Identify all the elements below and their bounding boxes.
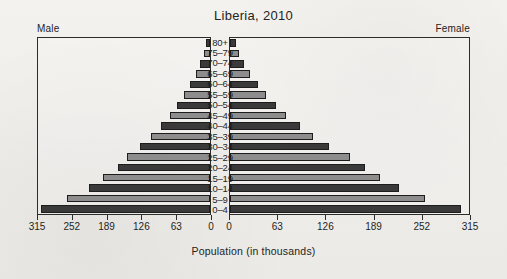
age-row: 45–49	[211, 110, 229, 120]
axis-tick	[107, 215, 108, 220]
female-tick-label: 63	[272, 221, 283, 232]
female-tick-label: 126	[317, 221, 334, 232]
female-bar-10-14	[230, 184, 399, 191]
male-tick-label: 0	[208, 221, 214, 232]
bar-row	[38, 183, 210, 193]
male-side-label: Male	[37, 23, 59, 34]
male-bar-0-4	[41, 205, 210, 212]
age-row: 25–29	[211, 152, 229, 162]
bar-row	[38, 204, 210, 214]
bar-row	[38, 69, 210, 79]
bar-row	[38, 173, 210, 183]
age-group-label: 0–4	[212, 205, 227, 215]
age-row: 70–74	[211, 58, 229, 68]
female-bar-60-64	[230, 81, 258, 88]
age-group-label: 70–74	[207, 58, 232, 68]
male-bar-rows	[38, 38, 210, 214]
age-group-label: 80+	[212, 38, 228, 48]
age-row: 80+	[211, 37, 229, 47]
female-bar-35-39	[230, 133, 313, 140]
male-bar-20-24	[118, 164, 210, 171]
population-pyramid-chart: Liberia, 2010 Male Female 0–45–910–1415–…	[0, 0, 507, 279]
female-tick-label: 189	[365, 221, 382, 232]
male-tick-label: 189	[98, 221, 115, 232]
bar-row	[230, 193, 469, 203]
axis-tick	[176, 215, 177, 220]
male-bar-25-29	[127, 153, 210, 160]
age-group-label: 20–24	[207, 163, 232, 173]
bar-row	[230, 141, 469, 151]
female-bar-50-54	[230, 102, 276, 109]
female-bar-55-59	[230, 91, 266, 98]
bar-row	[230, 162, 469, 172]
bar-row	[38, 193, 210, 203]
male-bar-10-14	[89, 184, 210, 191]
male-bar-30-34	[140, 143, 210, 150]
male-bar-50-54	[177, 102, 210, 109]
female-bar-45-49	[230, 112, 286, 119]
age-group-axis: 0–45–910–1415–1920–2425–2930–3435–3940–4…	[211, 37, 229, 215]
age-row: 0–4	[211, 205, 229, 215]
age-group-label: 15–19	[207, 174, 232, 184]
axis-tick	[325, 215, 326, 220]
female-bar-0-4	[230, 205, 461, 212]
age-row: 10–14	[211, 184, 229, 194]
female-bar-rows	[230, 38, 469, 214]
bar-row	[230, 121, 469, 131]
male-plot-area	[37, 37, 211, 215]
male-tick-label: 126	[133, 221, 150, 232]
bar-row	[230, 152, 469, 162]
female-tick-label: 0	[226, 221, 232, 232]
age-row: 55–59	[211, 89, 229, 99]
chart-title: Liberia, 2010	[0, 8, 507, 23]
female-bar-80+	[230, 39, 236, 46]
bar-row	[38, 90, 210, 100]
male-bar-45-49	[170, 112, 210, 119]
female-plot-area	[229, 37, 470, 215]
age-row: 75–79	[211, 48, 229, 58]
female-bar-40-44	[230, 122, 300, 129]
female-tick-label: 315	[462, 221, 479, 232]
bar-row	[38, 48, 210, 58]
age-row: 35–39	[211, 131, 229, 141]
male-tick-label: 252	[63, 221, 80, 232]
age-group-label: 75–79	[207, 48, 232, 58]
bar-row	[230, 173, 469, 183]
bar-row	[38, 131, 210, 141]
bar-row	[38, 141, 210, 151]
age-row: 60–64	[211, 79, 229, 89]
bar-row	[230, 59, 469, 69]
axis-tick	[374, 215, 375, 220]
axis-tick	[229, 215, 230, 220]
male-bar-40-44	[161, 122, 210, 129]
axis-tick	[470, 215, 471, 220]
bar-row	[38, 79, 210, 89]
bar-row	[230, 100, 469, 110]
male-bar-80+	[206, 39, 210, 46]
male-bar-15-19	[103, 174, 210, 181]
bar-row	[38, 59, 210, 69]
age-group-label: 50–54	[207, 100, 232, 110]
male-x-axis: 315252189126630	[37, 215, 211, 237]
x-axis-title: Population (in thousands)	[0, 245, 507, 257]
axis-tick	[277, 215, 278, 220]
bar-row	[230, 38, 469, 48]
age-row: 20–24	[211, 163, 229, 173]
age-row: 15–19	[211, 173, 229, 183]
bar-row	[230, 183, 469, 193]
age-group-label: 30–34	[207, 142, 232, 152]
female-bar-30-34	[230, 143, 329, 150]
bar-row	[230, 131, 469, 141]
axis-tick	[422, 215, 423, 220]
bar-row	[38, 121, 210, 131]
female-bar-65-69	[230, 70, 250, 77]
bar-row	[38, 110, 210, 120]
age-group-label: 40–44	[207, 121, 232, 131]
age-row: 40–44	[211, 121, 229, 131]
axis-tick	[211, 215, 212, 220]
bar-row	[230, 90, 469, 100]
bar-row	[38, 162, 210, 172]
female-tick-label: 252	[413, 221, 430, 232]
age-row: 5–9	[211, 194, 229, 204]
axis-tick	[141, 215, 142, 220]
